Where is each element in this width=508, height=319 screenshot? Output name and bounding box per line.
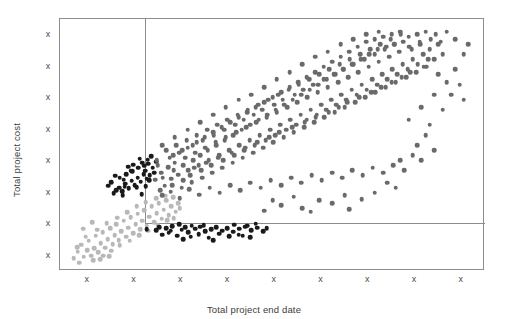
data-point — [75, 245, 80, 250]
data-point — [255, 225, 260, 230]
data-point — [274, 77, 279, 82]
data-point — [372, 37, 377, 42]
data-point — [421, 52, 426, 57]
data-point — [291, 130, 296, 135]
data-point — [300, 206, 305, 211]
data-point — [210, 170, 215, 175]
data-point — [339, 92, 344, 97]
data-point — [398, 158, 403, 163]
data-point — [161, 175, 166, 180]
data-point — [142, 208, 147, 213]
data-point — [277, 130, 282, 135]
data-point — [181, 237, 186, 242]
data-point — [327, 67, 332, 72]
data-point — [308, 107, 313, 112]
data-point — [121, 218, 126, 223]
data-point — [289, 175, 294, 180]
data-point — [322, 115, 327, 120]
data-point — [258, 186, 263, 191]
data-point — [149, 154, 154, 159]
data-point — [426, 57, 431, 62]
data-point — [336, 80, 341, 85]
data-point — [453, 37, 458, 42]
data-point — [181, 163, 186, 168]
data-point — [368, 47, 373, 52]
data-point — [161, 207, 166, 212]
data-point — [393, 80, 398, 85]
data-point — [143, 168, 148, 173]
data-point — [172, 216, 177, 221]
data-point — [125, 210, 130, 215]
data-point — [96, 250, 101, 255]
data-point — [440, 52, 445, 57]
data-point — [138, 227, 143, 232]
data-point — [190, 143, 195, 148]
data-point — [385, 181, 390, 186]
data-point — [240, 233, 245, 238]
data-point — [113, 233, 118, 238]
data-point — [165, 218, 170, 223]
data-point — [162, 184, 167, 189]
data-point — [281, 135, 286, 140]
data-point — [360, 173, 365, 178]
data-point — [181, 178, 186, 183]
data-point — [146, 161, 151, 166]
data-point — [158, 188, 163, 193]
data-point — [209, 163, 214, 168]
data-point — [100, 230, 105, 235]
data-point — [364, 39, 369, 44]
data-point — [223, 138, 228, 143]
data-point — [427, 47, 432, 52]
data-point — [432, 57, 437, 62]
data-point — [348, 57, 353, 62]
data-point — [362, 57, 367, 62]
data-point — [189, 180, 194, 185]
data-point — [419, 105, 424, 110]
data-point — [371, 165, 376, 170]
data-point — [359, 82, 364, 87]
data-point — [197, 193, 202, 198]
data-point — [154, 196, 159, 201]
data-point — [332, 110, 337, 115]
data-point — [126, 225, 131, 230]
data-point — [270, 198, 275, 203]
data-point — [282, 102, 287, 107]
y-tick-label: x — [41, 29, 55, 39]
data-point — [155, 163, 160, 168]
data-point — [415, 32, 420, 37]
data-point — [294, 123, 299, 128]
data-point — [381, 34, 386, 39]
data-point — [114, 222, 119, 227]
data-point — [157, 225, 162, 230]
data-point — [198, 120, 203, 125]
data-point — [410, 57, 415, 62]
data-point — [160, 143, 165, 148]
data-point — [397, 49, 402, 54]
data-point — [320, 178, 325, 183]
data-point — [207, 186, 212, 191]
y-axis-title: Total project cost — [11, 100, 22, 220]
data-point — [183, 225, 188, 230]
data-point — [187, 187, 192, 192]
data-point — [138, 156, 143, 161]
scatter-plot-figure: Total project cost xxxxxxxx xxxxxxxxx To… — [0, 0, 508, 319]
data-point — [95, 227, 100, 232]
data-point — [175, 233, 180, 238]
data-point — [274, 107, 279, 112]
data-point — [214, 143, 219, 148]
data-point — [276, 92, 281, 97]
data-point — [126, 164, 131, 169]
data-point — [392, 42, 397, 47]
data-point — [311, 82, 316, 87]
data-point — [185, 145, 190, 150]
data-point — [155, 211, 160, 216]
data-point — [238, 188, 243, 193]
data-point — [299, 92, 304, 97]
data-point — [134, 185, 139, 190]
data-point — [172, 168, 177, 173]
data-point — [302, 125, 307, 130]
data-point — [410, 47, 415, 52]
data-point — [346, 75, 351, 80]
data-point — [432, 92, 437, 97]
data-point — [372, 52, 377, 57]
